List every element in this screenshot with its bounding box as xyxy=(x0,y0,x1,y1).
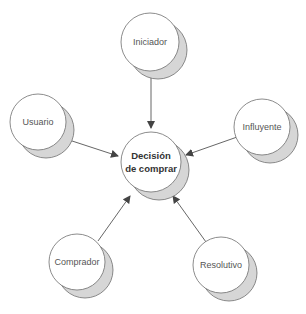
center-label-line2: de comprar xyxy=(125,162,177,175)
node-iniciador-label: Iniciador xyxy=(133,37,167,48)
buying-center-diagram: Iniciador Usuario Influyente Comprador R… xyxy=(0,0,306,314)
arrow-usuario-to-decision xyxy=(66,139,118,156)
arrow-comprador-to-decision xyxy=(98,196,130,241)
node-usuario-label: Usuario xyxy=(22,117,53,128)
center-label-line1: Decisión xyxy=(125,149,177,162)
arrow-influyente-to-decision xyxy=(186,136,240,155)
node-resolutivo-label: Resolutivo xyxy=(200,260,242,271)
node-comprador-label: Comprador xyxy=(54,257,99,268)
arrow-resolutivo-to-decision xyxy=(173,196,206,242)
node-influyente-label: Influyente xyxy=(242,122,281,133)
center-node-label: Decisión de comprar xyxy=(125,149,177,175)
